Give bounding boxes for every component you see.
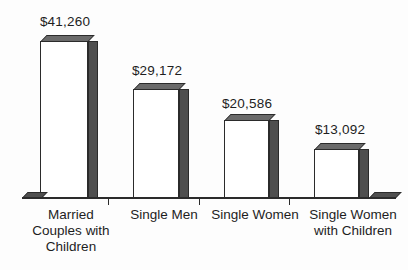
- axis-tick-3: [289, 199, 290, 205]
- bar-side-face: [359, 149, 369, 199]
- bar-front-face: [224, 120, 269, 199]
- category-label-single-men: Single Men: [118, 207, 210, 223]
- axis-baseline: [22, 197, 396, 199]
- value-label-married-couples-with-children: $41,260: [25, 14, 105, 29]
- value-label-single-women: $20,586: [207, 96, 287, 111]
- bar-front-face: [133, 89, 179, 199]
- axis-tick-1: [108, 199, 109, 205]
- bar-single-women-with-children: [314, 143, 369, 199]
- value-label-single-men: $29,172: [117, 63, 197, 78]
- category-label-single-women-with-children: Single Women with Children: [300, 207, 406, 239]
- bar-chart: $41,260 $29,172 $20,586 $13,092 Married …: [0, 0, 408, 270]
- value-label-single-women-with-children: $13,092: [300, 122, 380, 137]
- bar-side-face: [179, 89, 189, 199]
- category-label-married-couples-with-children: Married Couples with Children: [16, 207, 126, 255]
- bar-side-face: [88, 41, 98, 199]
- bar-front-face: [40, 41, 88, 199]
- category-label-single-women: Single Women: [203, 207, 307, 223]
- bar-side-face: [269, 120, 279, 199]
- bar-single-men: [133, 83, 189, 199]
- axis-floor-right: [369, 192, 402, 198]
- bar-single-women: [224, 114, 279, 199]
- axis-tick-2: [199, 199, 200, 205]
- bar-front-face: [314, 149, 359, 199]
- bar-married-couples-with-children: [40, 35, 98, 199]
